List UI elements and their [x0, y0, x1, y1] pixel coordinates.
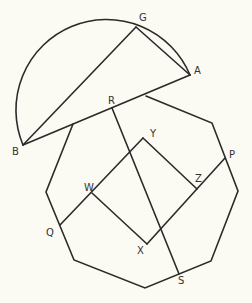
label-Q: Q: [46, 227, 54, 238]
label-Y: Y: [149, 128, 157, 139]
label-S: S: [178, 275, 184, 286]
geometry-diagram: G A B R Y P Z W Q X S: [0, 0, 252, 303]
segment-WZ-line: [92, 193, 147, 244]
segment-XP: [147, 158, 225, 244]
segment-GA: [136, 27, 190, 75]
label-G: G: [139, 12, 147, 23]
segment-QY: [60, 138, 143, 225]
label-P: P: [229, 149, 235, 160]
segment-RX: [112, 108, 179, 274]
segment-BA: [23, 75, 190, 145]
octagon: [46, 96, 238, 288]
segment-YZ: [143, 138, 197, 189]
label-Z: Z: [195, 173, 202, 184]
label-B: B: [12, 146, 19, 157]
diagram-canvas: G A B R Y P Z W Q X S: [0, 0, 252, 303]
label-R: R: [108, 95, 115, 106]
label-W: W: [84, 182, 94, 193]
label-X: X: [137, 245, 144, 256]
label-A: A: [194, 65, 201, 76]
